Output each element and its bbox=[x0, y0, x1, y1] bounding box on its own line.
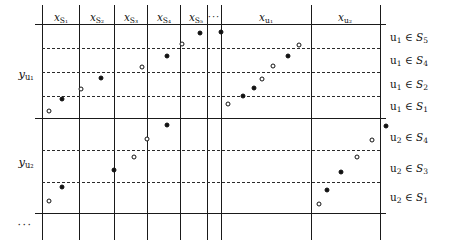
grid-dashed-line bbox=[42, 48, 380, 49]
data-point-open bbox=[226, 102, 231, 107]
data-point-filled bbox=[339, 170, 344, 175]
row-header-y-u2: yu₂ bbox=[18, 157, 33, 170]
row-header-y-u1: yu₁ bbox=[18, 69, 33, 82]
grid-dashed-line bbox=[42, 72, 380, 73]
grid-dashed-line bbox=[42, 182, 380, 183]
data-point-open bbox=[180, 42, 185, 47]
data-point-filled bbox=[165, 54, 170, 59]
data-point-filled bbox=[286, 54, 291, 59]
grid-vline bbox=[221, 5, 222, 240]
data-point-filled bbox=[112, 168, 117, 173]
data-point-filled bbox=[252, 86, 257, 91]
grid-vline bbox=[311, 5, 312, 240]
grid-hline bbox=[35, 24, 386, 25]
grid-vline bbox=[147, 5, 148, 240]
data-point-filled bbox=[165, 123, 170, 128]
column-header-x-u2: xu₂ bbox=[338, 12, 352, 25]
data-point-open bbox=[355, 155, 360, 160]
side-label-u1-s4: u1 ∈ S4 bbox=[390, 55, 428, 68]
data-point-filled bbox=[325, 188, 330, 193]
data-point-open bbox=[145, 137, 150, 142]
column-header-x-s3: xS₃ bbox=[124, 12, 138, 25]
data-point-open bbox=[271, 64, 276, 69]
data-point-filled bbox=[60, 185, 65, 190]
data-point-filled bbox=[60, 97, 65, 102]
data-point-filled bbox=[99, 76, 104, 81]
data-point-open bbox=[47, 109, 52, 114]
data-point-open bbox=[317, 202, 322, 207]
side-label-u2-s3: u2 ∈ S3 bbox=[390, 163, 428, 176]
grid-dashed-line bbox=[42, 150, 380, 151]
grid-vline bbox=[42, 5, 43, 240]
data-point-filled bbox=[241, 94, 246, 99]
data-point-filled bbox=[219, 30, 224, 35]
grid-vline bbox=[79, 5, 80, 240]
side-label-u2-s1: u2 ∈ S1 bbox=[390, 192, 428, 205]
column-header-x-u1: xu₁ bbox=[259, 12, 273, 25]
side-label-u1-s2: u1 ∈ S2 bbox=[390, 79, 428, 92]
column-header-x-s5: xS₅ bbox=[189, 12, 203, 25]
grid-scatter-figure: xS₁xS₂xS₃xS₄xS₅···xu₁xu₂yu₁yu₂···u1 ∈ S5… bbox=[0, 0, 456, 243]
data-point-filled bbox=[384, 124, 389, 129]
data-point-open bbox=[140, 65, 145, 70]
side-label-u2-s4: u2 ∈ S4 bbox=[390, 132, 428, 145]
data-point-open bbox=[79, 87, 84, 92]
grid-vline bbox=[380, 5, 381, 240]
grid-vline bbox=[207, 5, 208, 240]
data-point-open bbox=[132, 155, 137, 160]
column-header-x-dots: ··· bbox=[208, 12, 221, 22]
side-label-u1-s5: u1 ∈ S5 bbox=[390, 32, 428, 45]
grid-hline bbox=[35, 213, 386, 214]
data-point-open bbox=[370, 138, 375, 143]
grid-vline bbox=[114, 5, 115, 240]
grid-hline bbox=[35, 118, 386, 119]
side-label-u1-s1: u1 ∈ S1 bbox=[390, 101, 428, 114]
data-point-open bbox=[260, 77, 265, 82]
grid-vline bbox=[180, 5, 181, 240]
data-point-open bbox=[47, 199, 52, 204]
row-header-y-dots: ··· bbox=[18, 220, 33, 231]
data-point-open bbox=[297, 43, 302, 48]
grid-dashed-line bbox=[42, 96, 380, 97]
data-point-filled bbox=[198, 31, 203, 36]
column-header-x-s2: xS₂ bbox=[90, 12, 104, 25]
column-header-x-s1: xS₁ bbox=[54, 12, 68, 25]
column-header-x-s4: xS₄ bbox=[157, 12, 171, 25]
